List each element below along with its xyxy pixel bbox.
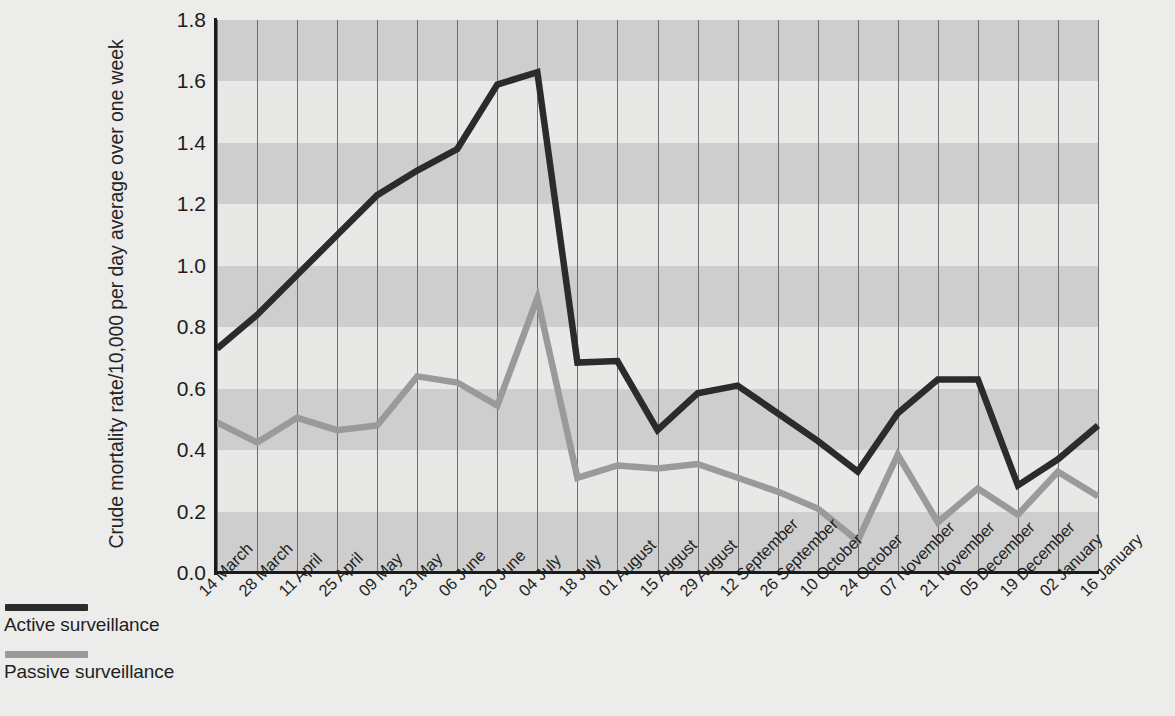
legend-label: Passive surveillance <box>4 661 174 683</box>
legend-swatch <box>5 651 88 658</box>
legend-label: Active surveillance <box>4 614 159 636</box>
x-tick-label: 18 July <box>555 551 605 601</box>
legend-item[interactable]: Passive surveillance <box>0 645 210 692</box>
x-tick-label: 25 April <box>315 549 367 601</box>
x-tick-label: 09 May <box>355 549 406 600</box>
x-tick-label: 23 May <box>395 549 446 600</box>
chart-legend: Active surveillancePassive surveillance <box>0 598 210 692</box>
legend-swatch <box>5 604 88 611</box>
legend-item[interactable]: Active surveillance <box>0 598 210 645</box>
chart-figure: Crude mortality rate/10,000 per day aver… <box>0 0 1175 716</box>
